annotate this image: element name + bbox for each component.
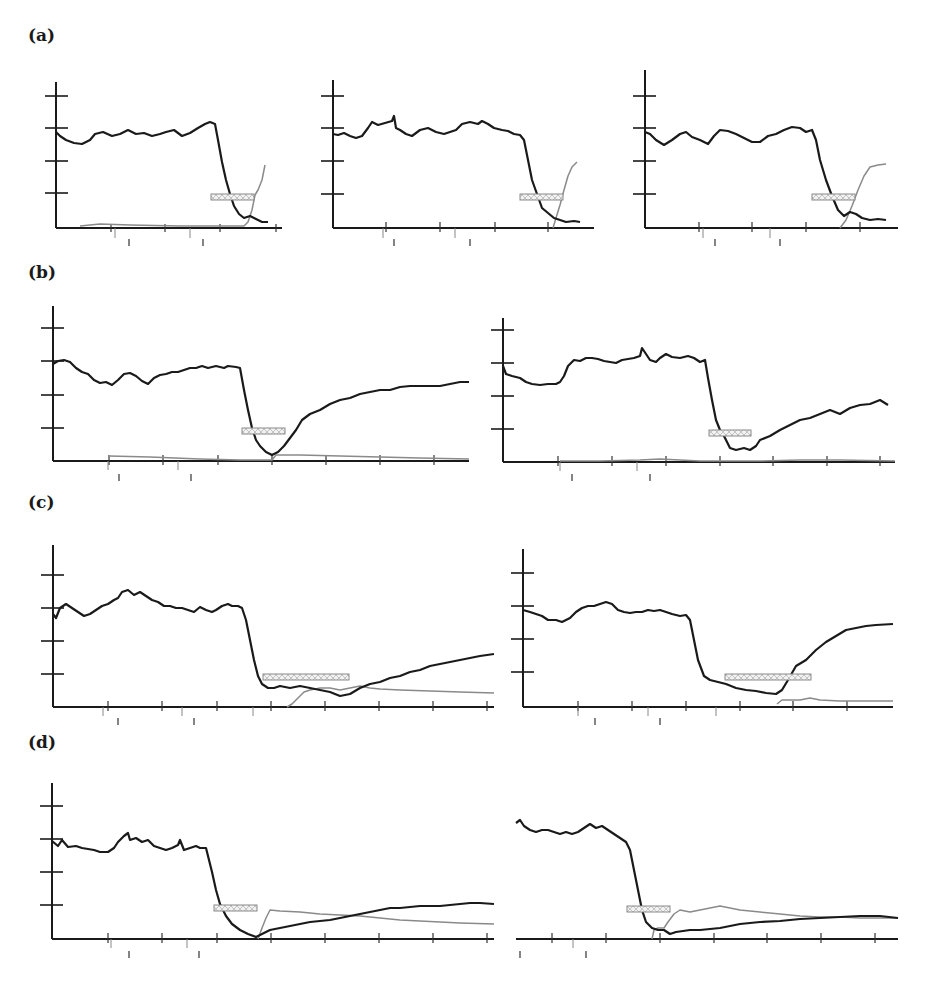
- chart-a2: [321, 80, 594, 246]
- chart-c2: [511, 549, 893, 725]
- figure-canvas: [0, 0, 928, 991]
- chart-b1: [41, 306, 469, 481]
- chart-d2: [516, 820, 898, 958]
- chart-c1: [41, 545, 494, 725]
- chart-b2: [491, 318, 895, 481]
- chart-a1: [45, 82, 282, 246]
- chart-a3: [633, 70, 898, 246]
- chart-d1: [40, 783, 494, 958]
